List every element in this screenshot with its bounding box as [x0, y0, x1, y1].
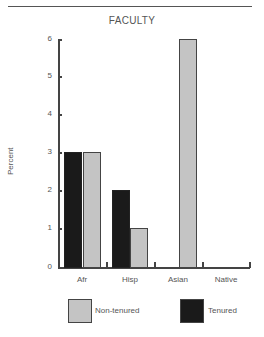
y-tick	[58, 76, 62, 78]
y-tick-label: 1	[40, 223, 52, 232]
y-tick-label: 6	[40, 34, 52, 43]
x-label-hisp: Hisp	[110, 275, 150, 284]
y-tick	[58, 190, 62, 192]
legend-swatch-tenured	[180, 299, 204, 323]
y-axis	[58, 39, 60, 268]
y-tick	[58, 152, 62, 154]
y-tick-label: 4	[40, 109, 52, 118]
y-tick-label: 5	[40, 71, 52, 80]
top-rule	[8, 6, 252, 7]
x-label-afr: Afr	[62, 275, 102, 284]
legend-swatch-nontenured	[68, 299, 92, 323]
bar-afr-tenured	[64, 152, 82, 268]
y-tick	[58, 39, 62, 41]
bar-hisp-nontenured	[130, 228, 148, 268]
y-tick	[58, 114, 62, 116]
y-tick	[58, 228, 62, 230]
legend-label-tenured: Tenured	[208, 306, 237, 315]
x-tick	[202, 262, 204, 268]
x-tick	[154, 262, 156, 268]
bar-afr-nontenured	[83, 152, 101, 268]
bar-hisp-tenured	[112, 190, 130, 268]
y-axis-label: Percent	[6, 147, 15, 175]
chart-title: FACULTY	[0, 15, 264, 26]
y-tick-label: 3	[40, 147, 52, 156]
legend-label-nontenured: Non-tenured	[95, 306, 139, 315]
x-tick	[106, 262, 108, 268]
bar-asian-nontenured	[179, 39, 197, 268]
y-tick-label: 2	[40, 185, 52, 194]
x-tick	[249, 262, 251, 268]
y-tick-label: 0	[40, 262, 52, 271]
x-label-asian: Asian	[158, 275, 198, 284]
x-label-native: Native	[206, 275, 246, 284]
y-tick	[58, 267, 62, 269]
